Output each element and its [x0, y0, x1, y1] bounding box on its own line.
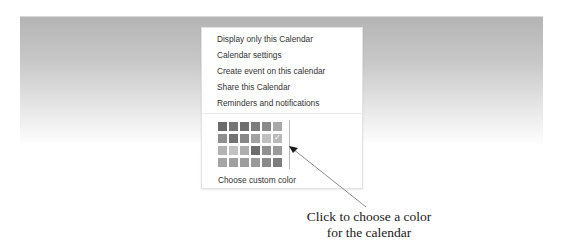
color-swatch[interactable]: [240, 134, 249, 143]
color-swatch[interactable]: [262, 134, 271, 143]
color-swatch[interactable]: [273, 122, 282, 131]
color-swatch[interactable]: [262, 158, 271, 167]
color-swatch[interactable]: [251, 134, 260, 143]
color-swatch[interactable]: [251, 158, 260, 167]
color-swatch[interactable]: [218, 146, 227, 155]
color-swatch[interactable]: [218, 158, 227, 167]
color-swatch[interactable]: [240, 146, 249, 155]
menu-item-share-calendar[interactable]: Share this Calendar: [217, 80, 290, 94]
color-swatch[interactable]: [218, 122, 227, 131]
color-palette: ✓: [218, 122, 288, 170]
menu-item-calendar-settings[interactable]: Calendar settings: [217, 48, 282, 62]
color-swatch[interactable]: [273, 158, 282, 167]
color-swatch[interactable]: [262, 122, 271, 131]
color-swatch[interactable]: [273, 146, 282, 155]
annotation-caption: Click to choose a color for the calendar: [289, 209, 449, 241]
caption-line-2: for the calendar: [289, 225, 449, 241]
menu-separator: [202, 113, 362, 114]
color-swatch[interactable]: [229, 134, 238, 143]
color-swatch[interactable]: [251, 122, 260, 131]
color-swatch[interactable]: [240, 158, 249, 167]
calendar-options-menu: Display only this Calendar Calendar sett…: [201, 27, 363, 189]
color-swatch[interactable]: [218, 134, 227, 143]
checkmark-icon: ✓: [273, 133, 282, 142]
color-swatch[interactable]: [229, 158, 238, 167]
backdrop-edge: [20, 16, 543, 17]
color-swatch[interactable]: [229, 122, 238, 131]
palette-divider: [289, 120, 290, 169]
menu-item-reminders[interactable]: Reminders and notifications: [217, 96, 319, 110]
menu-item-display-only[interactable]: Display only this Calendar: [217, 32, 313, 46]
color-swatch[interactable]: [240, 122, 249, 131]
color-swatch[interactable]: [262, 146, 271, 155]
color-swatch[interactable]: [229, 146, 238, 155]
caption-line-1: Click to choose a color: [289, 209, 449, 225]
menu-item-create-event[interactable]: Create event on this calendar: [217, 64, 325, 78]
color-swatch[interactable]: [251, 146, 260, 155]
choose-custom-color-link[interactable]: Choose custom color: [218, 173, 296, 187]
color-swatch[interactable]: ✓: [273, 134, 282, 143]
